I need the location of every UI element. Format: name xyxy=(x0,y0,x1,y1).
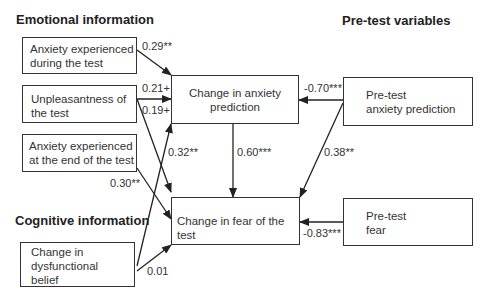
node-pretest-anxiety-prediction: Pre-test anxiety prediction xyxy=(343,77,473,126)
coef-during-to-anxiety: 0.29** xyxy=(142,40,172,52)
coef-dysfunc-to-fear: 0.01 xyxy=(147,265,168,277)
coef-preanx-to-fear: 0.38** xyxy=(324,146,354,158)
node-label: Anxiety experienced at the end of the te… xyxy=(29,139,136,167)
node-label: Change in fear of the test xyxy=(177,214,299,242)
node-label: Unpleasantness of the test xyxy=(31,92,136,120)
coef-unpleasant-to-anxiety: 0.21+ xyxy=(142,82,170,94)
coef-unpleasant-to-fear: 0.19+ xyxy=(142,104,170,116)
node-label: Change in dysfunctional belief xyxy=(31,245,134,287)
node-label: Pre-test fear xyxy=(366,209,472,237)
coef-end-to-fear: 0.30** xyxy=(110,177,140,189)
node-label: Pre-test anxiety prediction xyxy=(366,88,472,116)
heading-cognitive-information: Cognitive information xyxy=(15,213,149,228)
node-change-fear-of-test: Change in fear of the test xyxy=(171,197,300,245)
heading-emotional-information: Emotional information xyxy=(16,12,154,27)
coef-anxiety-to-fear: 0.60*** xyxy=(237,146,271,158)
heading-pretest-variables: Pre-test variables xyxy=(342,13,450,28)
node-anxiety-during-test: Anxiety experienced during the test xyxy=(22,37,137,74)
node-pretest-fear: Pre-test fear xyxy=(343,198,473,246)
node-change-dysfunctional-belief: Change in dysfunctional belief xyxy=(20,242,135,287)
coef-dysfunc-to-anxiety: 0.32** xyxy=(168,146,198,158)
node-label: Anxiety experienced during the test xyxy=(30,42,136,70)
coef-prefear-to-fear: -0.83*** xyxy=(303,227,341,239)
node-unpleasantness: Unpleasantness of the test xyxy=(22,85,137,123)
node-label: Change in anxiety prediction xyxy=(172,86,298,114)
node-change-anxiety-prediction: Change in anxiety prediction xyxy=(171,75,299,124)
node-anxiety-end-test: Anxiety experienced at the end of the te… xyxy=(22,134,137,172)
coef-preanx-to-anxiety: -0.70*** xyxy=(304,82,342,94)
